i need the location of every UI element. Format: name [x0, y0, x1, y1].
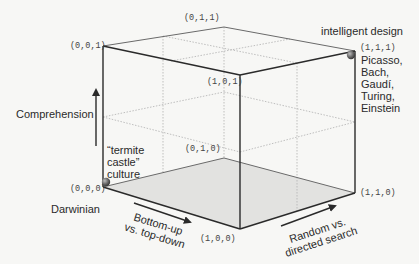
vertex-label-110: (1,1,0)	[360, 189, 396, 198]
top-sphere-icon	[347, 51, 355, 59]
darwinian-label: Darwinian	[51, 204, 100, 215]
vertex-label-100: (1,0,0)	[200, 235, 236, 244]
vertex-label-000: (0,0,0)	[70, 185, 106, 194]
termite-castle-note: “termite castle” culture	[107, 145, 144, 181]
cube-diagram	[0, 0, 419, 264]
axis-label-comprehension: Comprehension	[16, 109, 94, 120]
vertex-label-001: (0,0,1)	[70, 42, 106, 51]
vertex-label-011: (0,1,1)	[184, 14, 220, 23]
intelligent-design-label: intelligent design	[321, 26, 403, 37]
genius-names-note: Picasso, Bach, Gaudí, Turing, Einstein	[361, 55, 403, 114]
vertex-label-010: (0,1,0)	[185, 145, 221, 154]
vertex-label-101: (1,0,1)	[207, 78, 243, 87]
vertex-label-111: (1,1,1)	[360, 44, 396, 53]
